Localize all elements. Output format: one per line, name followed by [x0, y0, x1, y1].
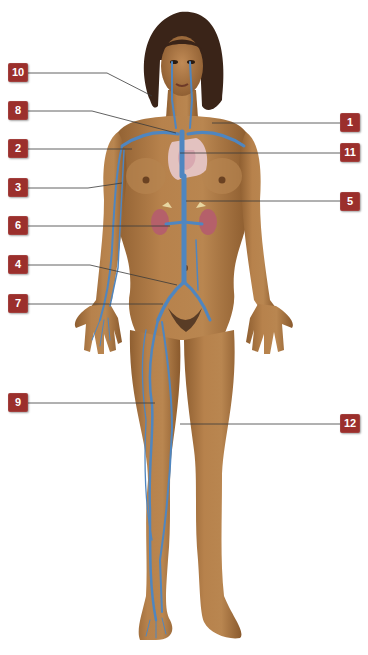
callout-7: 7 [8, 294, 28, 313]
callout-4: 4 [8, 255, 28, 274]
callout-6: 6 [8, 216, 28, 235]
callout-9: 9 [8, 393, 28, 412]
anatomy-figure [0, 0, 368, 655]
face [161, 36, 203, 96]
callout-12: 12 [340, 414, 360, 433]
callout-10: 10 [8, 63, 28, 82]
callout-11: 11 [340, 143, 360, 162]
callout-3: 3 [8, 178, 28, 197]
callout-8: 8 [8, 101, 28, 120]
heart-lungs [168, 138, 207, 180]
leader-line-10 [28, 73, 152, 96]
callout-2: 2 [8, 139, 28, 158]
callout-1: 1 [340, 113, 360, 132]
callout-5: 5 [340, 192, 360, 211]
